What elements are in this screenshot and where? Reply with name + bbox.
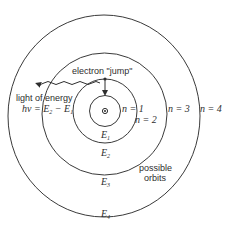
nucleus-icon: [102, 108, 107, 113]
bohr-atom-diagram: electron "jump" light of energy hν = E2 …: [0, 0, 233, 231]
energy-label-e3: E3: [100, 176, 110, 188]
energy-label-e4: E4: [100, 208, 110, 220]
orbit-label-n1: n = 1: [122, 103, 144, 114]
orbit-label-n4: n = 4: [200, 103, 222, 114]
orbit-label-n2: n = 2: [135, 114, 157, 125]
orbit-label-n3: n = 3: [168, 103, 190, 114]
energy-label-e2: E2: [100, 147, 110, 159]
energy-formula: hν = E2 − E1: [22, 103, 73, 115]
electron-jump-label: electron "jump": [72, 66, 132, 76]
energy-label-e1: E1: [100, 129, 110, 141]
possible-orbits-label-line2: orbits: [144, 173, 167, 183]
possible-orbits-label-line1: possible: [139, 163, 172, 173]
light-energy-label: light of energy: [16, 93, 73, 103]
